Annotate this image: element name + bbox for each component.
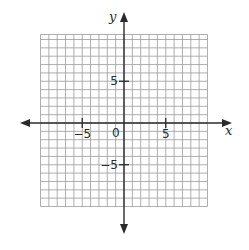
axes <box>20 12 232 234</box>
coordinate-plane: x y 0 −555−5 <box>0 0 249 250</box>
y-tick-label: 5 <box>110 74 118 88</box>
x-tick-label: −5 <box>73 127 91 141</box>
x-tick-label: 5 <box>162 127 170 141</box>
y-tick-label: −5 <box>100 158 118 172</box>
y-axis-up-arrow-icon <box>120 12 128 22</box>
y-axis-label: y <box>108 9 117 24</box>
x-axis-left-arrow-icon <box>20 119 30 127</box>
origin-label: 0 <box>112 126 120 140</box>
x-axis-label: x <box>225 123 233 138</box>
y-axis-down-arrow-icon <box>120 224 128 234</box>
